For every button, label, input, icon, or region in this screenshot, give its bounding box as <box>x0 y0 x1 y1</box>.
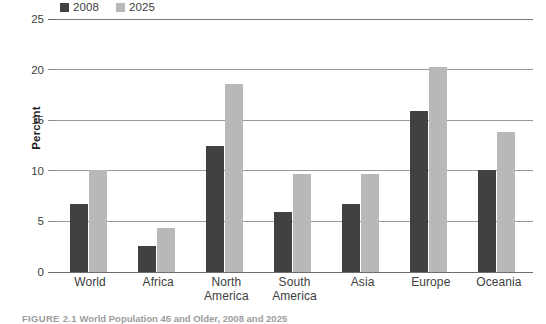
bar-2008-world <box>70 204 88 272</box>
bar-group <box>274 19 311 272</box>
y-axis-tick-labels: 0510152025 <box>14 19 44 272</box>
x-label-south-america: SouthAmerica <box>260 276 328 303</box>
bar-2008-oceania <box>478 170 496 272</box>
legend-item-2008: 2008 <box>60 2 99 13</box>
y-tick-mark-15 <box>48 120 56 121</box>
x-label-africa: Africa <box>124 276 192 290</box>
bar-group <box>206 19 243 272</box>
y-tick-mark-20 <box>48 69 56 70</box>
bar-2025-world <box>89 170 107 272</box>
bar-group <box>478 19 515 272</box>
chart-legend: 2008 2025 <box>60 1 155 14</box>
bar-2025-africa <box>157 228 175 272</box>
figure-caption: FIGURE 2.1 World Population 45 and Older… <box>22 313 522 324</box>
bar-2008-europe <box>410 111 428 272</box>
y-tick-label-10: 10 <box>14 166 44 176</box>
x-label-north-america: NorthAmerica <box>192 276 260 303</box>
bar-group <box>410 19 447 272</box>
x-label-asia: Asia <box>329 276 397 290</box>
legend-swatch-2008 <box>60 3 69 12</box>
bar-2008-africa <box>138 246 156 272</box>
y-tick-label-0: 0 <box>14 267 44 277</box>
y-tick-mark-5 <box>48 221 56 222</box>
legend-label-2008: 2008 <box>73 2 99 13</box>
legend-swatch-2025 <box>116 3 125 12</box>
bar-2025-europe <box>429 67 447 272</box>
bar-group <box>138 19 175 272</box>
x-label-oceania: Oceania <box>465 276 533 290</box>
y-tick-label-5: 5 <box>14 216 44 226</box>
bar-2008-asia <box>342 204 360 272</box>
y-tick-label-15: 15 <box>14 115 44 125</box>
bar-group <box>70 19 107 272</box>
y-tick-label-20: 20 <box>14 65 44 75</box>
bar-2008-south-america <box>274 212 292 272</box>
caption-title: World Population 45 and Older, 2008 and … <box>79 313 287 324</box>
bar-2025-south-america <box>293 174 311 272</box>
legend-label-2025: 2025 <box>129 2 155 13</box>
y-tick-mark-25 <box>48 19 56 21</box>
bar-2025-north-america <box>225 84 243 272</box>
bar-2025-asia <box>361 174 379 272</box>
y-tick-mark-0 <box>48 272 56 274</box>
y-tick-mark-10 <box>48 170 56 171</box>
plot-area <box>56 19 533 272</box>
y-tick-label-25: 25 <box>14 14 44 24</box>
x-label-world: World <box>56 276 124 290</box>
bar-group <box>342 19 379 272</box>
legend-item-2025: 2025 <box>116 2 155 13</box>
bar-2025-oceania <box>497 132 515 272</box>
x-axis-category-labels: WorldAfricaNorthAmericaSouthAmericaAsiaE… <box>56 276 533 310</box>
x-label-europe: Europe <box>397 276 465 290</box>
bar-2008-north-america <box>206 146 224 273</box>
caption-prefix: FIGURE 2.1 <box>22 313 77 324</box>
